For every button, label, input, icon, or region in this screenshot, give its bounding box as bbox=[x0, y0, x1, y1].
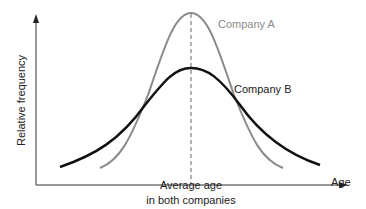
company-b-label: Company B bbox=[234, 83, 291, 95]
y-axis-arrow-icon bbox=[33, 14, 39, 23]
chart-canvas bbox=[0, 0, 366, 209]
average-label-line1: Average age bbox=[141, 179, 241, 191]
company-a-label: Company A bbox=[218, 18, 275, 30]
average-label-line2: in both companies bbox=[131, 194, 251, 206]
x-axis-label: Age bbox=[331, 176, 351, 188]
y-axis-label: Relative frequency bbox=[15, 55, 27, 146]
